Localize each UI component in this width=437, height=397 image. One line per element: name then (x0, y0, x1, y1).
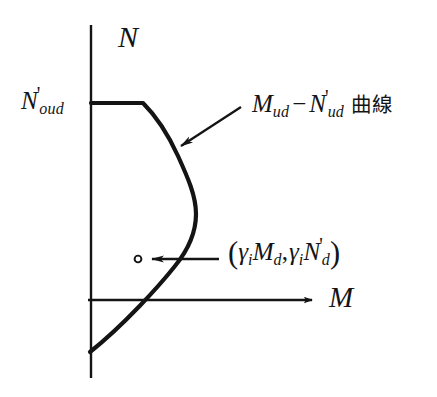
curve-annotation-arrow (181, 107, 241, 146)
close-paren: ) (330, 236, 340, 270)
open-paren: ( (228, 236, 238, 270)
design-point-marker (135, 256, 142, 263)
diagram-canvas (0, 0, 437, 397)
label-design-point: (γiMd,γiN'd) (228, 235, 340, 268)
nd-subscript: d (322, 251, 330, 268)
mn-interaction-diagram: N M N'oud Mud−N'ud曲線 (γiMd,γiN'd) (0, 0, 437, 397)
md-subscript: d (274, 251, 282, 268)
curve-term1-base: M (252, 90, 273, 117)
curve-cjk-label: 曲線 (351, 93, 392, 117)
axis-label-m: M (329, 283, 353, 312)
curve-term1-subscript: ud (273, 103, 289, 120)
label-n-oud: N'oud (21, 84, 64, 117)
gamma-2: γ (289, 238, 299, 265)
label-curve-annotation: Mud−N'ud曲線 (252, 87, 392, 120)
curve-minus-operator: − (289, 90, 309, 117)
n-oud-subscript: oud (39, 100, 64, 117)
curve-term2-subscript: ud (328, 103, 344, 120)
interaction-curve (90, 103, 196, 352)
gamma-1: γ (238, 238, 248, 265)
md-base: M (253, 238, 274, 265)
nd-base: N (303, 238, 320, 265)
axis-label-n: N (118, 22, 138, 52)
curve-term2-base: N (309, 90, 326, 117)
n-oud-base: N (21, 87, 38, 114)
coordinate-comma: , (282, 238, 289, 265)
